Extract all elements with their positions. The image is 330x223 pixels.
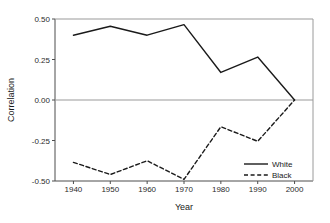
y-axis-title: Correlation — [6, 78, 16, 122]
y-tick-label-0: 0.50 — [34, 15, 50, 24]
y-tick-label-3: -0.25 — [32, 137, 51, 146]
x-tick-label-0: 1940 — [65, 185, 83, 194]
legend-label-white: White — [272, 160, 293, 169]
y-tick-label-1: 0.25 — [34, 56, 50, 65]
x-tick-label-1: 1950 — [101, 185, 119, 194]
correlation-line-chart: 0.50 0.25 0.00 -0.25 -0.50 1940 1950 196… — [0, 0, 330, 223]
x-tick-label-4: 1980 — [212, 185, 230, 194]
chart-background — [0, 0, 330, 223]
y-tick-label-4: -0.50 — [32, 177, 51, 186]
chart-svg: 0.50 0.25 0.00 -0.25 -0.50 1940 1950 196… — [0, 0, 330, 223]
x-tick-label-6: 2000 — [286, 185, 304, 194]
x-axis-title: Year — [175, 202, 193, 212]
x-tick-label-2: 1960 — [138, 185, 156, 194]
x-tick-label-3: 1970 — [175, 185, 193, 194]
legend-label-black: Black — [272, 171, 293, 180]
y-tick-label-2: 0.00 — [34, 96, 50, 105]
x-tick-label-5: 1990 — [249, 185, 267, 194]
